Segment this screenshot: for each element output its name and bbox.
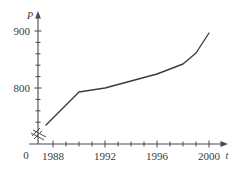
x-axis-title: t [226,150,229,161]
y-tick-label-900: 900 [14,25,31,37]
y-axis-title: P [26,10,33,21]
y-tick-label-800: 800 [14,82,31,94]
origin-label: 0 [23,149,29,161]
x-tick-label-2000: 2000 [198,150,221,162]
chart-figure: 900 800 P 1988 1992 1996 2000 t 0 [0,0,238,169]
x-axis-arrow-icon [221,141,229,147]
x-tick-label-1996: 1996 [146,150,169,162]
y-axis-arrow-icon [35,11,41,19]
population-curve [46,33,209,125]
x-tick-label-1992: 1992 [94,150,116,162]
line-chart-canvas: 900 800 P 1988 1992 1996 2000 t 0 [0,0,238,169]
x-tick-label-1988: 1988 [42,150,65,162]
